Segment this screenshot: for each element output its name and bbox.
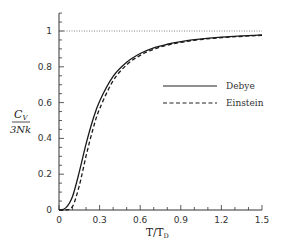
- x-axis-title: T/TD: [146, 226, 169, 240]
- x-axis-title-text: T/TD: [146, 226, 169, 240]
- y-tick-label: 0.8: [38, 62, 53, 72]
- y-axis-title: CV 3Nk: [10, 108, 31, 135]
- y-tick-label: 1: [46, 26, 52, 36]
- x-tick-label: 0.6: [133, 215, 148, 225]
- legend-einstein-label: Einstein: [226, 98, 264, 108]
- x-tick-label: 0: [56, 215, 62, 225]
- y-axis-title-top: CV: [14, 108, 28, 122]
- curves: [59, 35, 262, 210]
- y-tick-label: 0: [46, 205, 52, 215]
- x-tick-label: 1.5: [255, 215, 269, 225]
- legend: Debye Einstein: [163, 81, 264, 108]
- curve-einstein: [59, 35, 262, 210]
- heat-capacity-chart: 00.20.40.60.8100.30.60.91.21.5 Debye Ein…: [0, 0, 281, 252]
- axes: [59, 13, 262, 210]
- y-axis-title-bottom: 3Nk: [10, 124, 31, 135]
- curve-debye: [59, 35, 262, 210]
- x-tick-label: 0.3: [92, 215, 106, 225]
- x-tick-label: 0.9: [174, 215, 189, 225]
- legend-debye-label: Debye: [226, 81, 255, 91]
- x-tick-label: 1.2: [214, 215, 228, 225]
- y-tick-label: 0.2: [38, 169, 52, 179]
- ticks: 00.20.40.60.8100.30.60.91.21.5: [38, 13, 269, 225]
- y-tick-label: 0.6: [38, 98, 53, 108]
- y-tick-label: 0.4: [38, 133, 53, 143]
